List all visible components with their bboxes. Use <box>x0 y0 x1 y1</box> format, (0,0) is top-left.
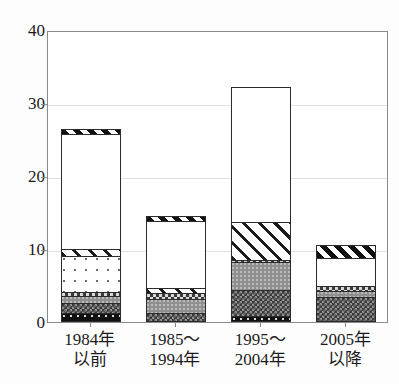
x-tick-label-line: 1994年 <box>127 350 223 370</box>
gridline <box>48 105 387 106</box>
bar-segment-dark-checkered <box>147 314 205 321</box>
bar-2 <box>146 216 206 322</box>
y-tick-label: 40 <box>5 22 45 39</box>
bar-segment-gray-solid <box>147 300 205 314</box>
x-tick-mark <box>260 322 261 327</box>
y-tick-label: 0 <box>5 314 45 331</box>
bar-segment-black-dotted <box>232 317 290 321</box>
y-tick-label: 30 <box>5 95 45 112</box>
x-tick-label-3: 1995～2004年 <box>212 330 308 370</box>
x-tick-label-line: 1984年 <box>42 330 138 350</box>
y-tick-label: 10 <box>5 241 45 258</box>
bar-3 <box>231 87 291 322</box>
bar-segment-gray-solid <box>232 263 290 291</box>
bar-segment-dark-checkered <box>317 298 375 321</box>
bar-segment-vertical-dash <box>62 135 120 251</box>
x-tick-label-4: 2005年以降 <box>297 330 393 370</box>
x-tick-label-line: 2004年 <box>212 350 308 370</box>
x-tick-label-line: 1995～ <box>212 330 308 350</box>
x-tick-label-line: 1985～ <box>127 330 223 350</box>
bar-segment-diagonal-hatch <box>232 223 290 261</box>
bar-4 <box>316 245 376 322</box>
x-tick-label-1: 1984年以前 <box>42 330 138 370</box>
bar-segment-dark-checkered <box>232 291 290 317</box>
bar-segment-black-dotted <box>62 314 120 321</box>
plot-area <box>47 31 388 323</box>
x-tick-mark <box>90 322 91 327</box>
stacked-bar-chart: 010203040 1984年以前1985～1994年1995～2004年200… <box>0 0 399 384</box>
bar-segment-dark-checkered <box>62 304 120 314</box>
x-tick-label-line: 2005年 <box>297 330 393 350</box>
x-tick-label-2: 1985～1994年 <box>127 330 223 370</box>
x-tick-mark <box>175 322 176 327</box>
bar-1 <box>61 129 121 322</box>
bar-segment-vertical-dash <box>317 259 375 287</box>
bar-segment-fine-dotted <box>62 257 120 293</box>
x-tick-label-line: 以前 <box>42 350 138 370</box>
x-tick-label-line: 以降 <box>297 350 393 370</box>
bar-segment-black-hatch-cap <box>317 246 375 259</box>
bar-segment-vertical-dash <box>147 222 205 289</box>
bar-segment-vertical-dash <box>232 88 290 223</box>
y-tick-label: 20 <box>5 168 45 185</box>
x-tick-mark <box>345 322 346 327</box>
